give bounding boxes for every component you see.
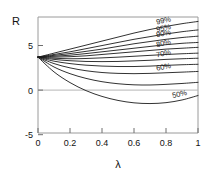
x-tick-label-3: 0.6 xyxy=(128,138,141,148)
chart-plot: 5 0 -5 0 0.2 0.4 0.6 0.8 1 R λ 99%95%90%… xyxy=(0,0,215,178)
curve-99pct xyxy=(38,21,198,57)
x-tick-label-0: 0 xyxy=(35,138,40,148)
curve-label-group: 99%95%90%80%70%60%50% xyxy=(155,14,188,100)
chart-container: 5 0 -5 0 0.2 0.4 0.6 0.8 1 R λ 99%95%90%… xyxy=(0,0,215,178)
plot-frame xyxy=(38,17,198,133)
curve-70pct xyxy=(38,57,198,61)
x-tick-label-5: 1 xyxy=(195,138,200,148)
curve-label-60pct: 60% xyxy=(155,61,172,73)
y-axis-title: R xyxy=(12,15,20,27)
x-axis-ticks xyxy=(38,128,198,133)
x-axis-title: λ xyxy=(115,158,121,170)
curve-label-70pct: 70% xyxy=(155,47,172,59)
curve-label-50pct: 50% xyxy=(171,88,188,100)
x-tick-label-2: 0.4 xyxy=(96,138,109,148)
y-tick-label-0: 5 xyxy=(28,41,33,51)
y-tick-label-2: -5 xyxy=(25,130,33,140)
x-tick-label-1: 0.2 xyxy=(64,138,77,148)
y-tick-label-1: 0 xyxy=(28,86,33,96)
x-tick-label-4: 0.8 xyxy=(160,138,173,148)
